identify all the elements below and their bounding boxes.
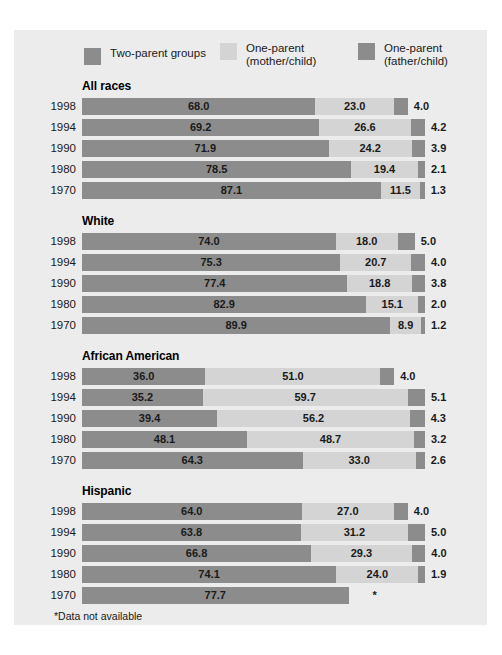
bar-row: 199836.051.04.0 [14, 368, 487, 385]
row-year-label: 1990 [14, 412, 76, 424]
bar-row: 197064.333.02.6 [14, 452, 487, 469]
bar-value-label-father-child: 4.0 [414, 100, 444, 112]
bar-segment-father-child [416, 452, 425, 469]
bar-track: 77.418.83.8 [82, 275, 465, 292]
bar-value-label-mother-child: 20.7 [340, 256, 411, 268]
bar-track: 71.924.23.9 [82, 140, 465, 157]
row-year-label: 1998 [14, 100, 76, 112]
bar-row: 197089.98.91.2 [14, 317, 487, 334]
legend-swatch-mother-child [220, 43, 237, 60]
bar-row: 199463.831.25.0 [14, 524, 487, 541]
stacked-bar-plot: All races199868.023.04.0199469.226.64.21… [14, 76, 487, 625]
row-year-label: 1990 [14, 142, 76, 154]
bar-value-label-two-parent: 69.2 [82, 121, 319, 133]
bar-segment-father-child [408, 524, 425, 541]
bar-value-label-two-parent: 78.5 [82, 163, 351, 175]
row-year-label: 1998 [14, 235, 76, 247]
bar-segment-father-child [412, 275, 425, 292]
bar-track: 82.915.12.0 [82, 296, 465, 313]
bar-value-label-father-child: 5.0 [431, 526, 461, 538]
bar-row: 198048.148.73.2 [14, 431, 487, 448]
bar-value-label-mother-child: 26.6 [319, 121, 410, 133]
bar-value-label-two-parent: 71.9 [82, 142, 329, 154]
bar-value-label-two-parent: 75.3 [82, 256, 340, 268]
bar-value-label-father-child: 3.8 [431, 277, 461, 289]
legend-item-father-child: One-parent (father/child) [358, 42, 448, 67]
bar-segment-father-child [421, 317, 425, 334]
bar-value-label-mother-child: 15.1 [366, 298, 418, 310]
bar-value-label-father-child: 2.0 [431, 298, 461, 310]
legend-item-mother-child: One-parent (mother/child) [220, 42, 316, 67]
bar-track: 66.829.34.0 [82, 545, 465, 562]
bar-track: 64.333.02.6 [82, 452, 465, 469]
bar-value-label-father-child: 4.0 [400, 370, 430, 382]
bar-value-label-father-child: 1.3 [431, 184, 461, 196]
row-year-label: 1970 [14, 454, 76, 466]
bar-segment-father-child [412, 140, 425, 157]
bar-row: 199066.829.34.0 [14, 545, 487, 562]
bar-value-label-two-parent: 77.7 [82, 589, 349, 601]
bar-value-label-two-parent: 77.4 [82, 277, 347, 289]
bar-value-label-father-child: 4.2 [431, 121, 461, 133]
bar-value-label-mother-child: 24.2 [329, 142, 412, 154]
row-year-label: 1990 [14, 547, 76, 559]
bar-value-label-mother-child: 23.0 [315, 100, 394, 112]
bar-segment-father-child [380, 368, 394, 385]
bar-track: 36.051.04.0 [82, 368, 465, 385]
group-title-all-races: All races [82, 79, 131, 93]
bar-value-label-two-parent: 63.8 [82, 526, 301, 538]
row-year-label: 1970 [14, 589, 76, 601]
bar-segment-father-child [420, 182, 424, 199]
bar-value-label-two-parent: 74.0 [82, 235, 336, 247]
bar-track: 89.98.91.2 [82, 317, 465, 334]
group-title-white: White [82, 214, 114, 228]
bar-segment-father-child [418, 161, 425, 178]
group-title-hispanic: Hispanic [82, 484, 131, 498]
legend-swatch-father-child [358, 43, 375, 60]
row-year-label: 1994 [14, 256, 76, 268]
row-year-label: 1998 [14, 505, 76, 517]
group-title-african-american: African American [82, 349, 179, 363]
bar-value-label-two-parent: 68.0 [82, 100, 315, 112]
bar-segment-father-child [408, 389, 425, 406]
bar-value-label-father-child: 4.0 [431, 547, 461, 559]
bar-segment-father-child [410, 410, 425, 427]
row-year-label: 1994 [14, 391, 76, 403]
legend-label-father-child: One-parent (father/child) [384, 42, 448, 67]
bar-value-label-two-parent: 36.0 [82, 370, 205, 382]
bar-value-label-father-child: 5.1 [431, 391, 461, 403]
row-year-label: 1970 [14, 319, 76, 331]
bar-value-label-father-child: 4.3 [431, 412, 461, 424]
bar-row: 198082.915.12.0 [14, 296, 487, 313]
legend-swatch-two-parent [84, 48, 101, 65]
bar-value-label-mother-child: 24.0 [336, 568, 418, 580]
bar-value-label-two-parent: 48.1 [82, 433, 247, 445]
bar-value-label-mother-child: 27.0 [302, 505, 395, 517]
bar-missing-label-mother-child: * [373, 589, 385, 601]
bar-value-label-father-child: 1.2 [431, 319, 461, 331]
chart-legend: Two-parent groups One-parent (mother/chi… [14, 42, 487, 80]
bar-track: 75.320.74.0 [82, 254, 465, 271]
bar-row: 199077.418.83.8 [14, 275, 487, 292]
bar-track: 39.456.24.3 [82, 410, 465, 427]
bar-value-label-mother-child: 18.0 [336, 235, 398, 247]
chart-panel: Two-parent groups One-parent (mother/chi… [14, 30, 487, 625]
bar-value-label-two-parent: 89.9 [82, 319, 390, 331]
bar-value-label-two-parent: 64.0 [82, 505, 302, 517]
bar-value-label-two-parent: 64.3 [82, 454, 303, 466]
row-year-label: 1980 [14, 433, 76, 445]
bar-row: 197077.7** [14, 587, 487, 604]
bar-value-label-mother-child: 29.3 [311, 547, 411, 559]
bar-value-label-father-child: 2.1 [431, 163, 461, 175]
row-year-label: 1970 [14, 184, 76, 196]
bar-segment-father-child [418, 296, 425, 313]
bar-row: 199469.226.64.2 [14, 119, 487, 136]
bar-value-label-two-parent: 82.9 [82, 298, 366, 310]
bar-segment-father-child [411, 119, 425, 136]
bar-value-label-father-child: 3.9 [431, 142, 461, 154]
bar-value-label-mother-child: 31.2 [301, 526, 408, 538]
row-year-label: 1998 [14, 370, 76, 382]
bar-value-label-mother-child: 33.0 [303, 454, 416, 466]
bar-row: 198078.519.42.1 [14, 161, 487, 178]
bar-row: 199868.023.04.0 [14, 98, 487, 115]
